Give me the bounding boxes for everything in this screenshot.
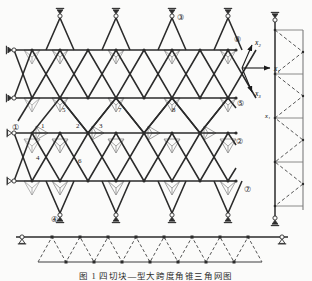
marker-2: ② [236, 137, 243, 146]
axis-label-x1: x₁ [273, 64, 280, 73]
node-label-2: 2 [76, 122, 80, 130]
axis-label-x3: x₃ [254, 89, 261, 98]
right-elevation-axis-label: x₁ [264, 112, 270, 119]
marker-3: ③ [177, 13, 184, 22]
axis-label-x2: x₂ [254, 38, 261, 47]
node-label-1: 1 [41, 122, 45, 130]
supports-right [234, 48, 237, 182]
right-elevation: x₁ [264, 12, 304, 225]
figure-root: x₁ x₂ x₃ 1 2 3 4 5 6 7 8 ① ② ③ ④ ⑤ ⑦ ⑧ [0, 0, 312, 281]
node-label-6: 6 [78, 157, 82, 165]
marker-4: ④ [51, 215, 58, 224]
supports-top [56, 8, 232, 18]
supports-left [6, 46, 16, 185]
marker-1: ① [12, 123, 19, 132]
node-label-8: 8 [172, 106, 176, 114]
node-label-3: 3 [99, 122, 103, 130]
node-label-4: 4 [36, 154, 40, 162]
diagonal-members [14, 18, 256, 213]
chord-lines [14, 50, 236, 181]
bottom-elevation [16, 235, 288, 264]
node-label-5: 5 [62, 106, 66, 114]
plan-view [6, 8, 256, 222]
marker-5: ⑤ [237, 99, 244, 108]
web-members [24, 16, 236, 195]
truss-drawing: x₁ x₂ x₃ 1 2 3 4 5 6 7 8 ① ② ③ ④ ⑤ ⑦ ⑧ [0, 0, 312, 281]
node-label-7: 7 [118, 106, 122, 114]
marker-8: ⑧ [234, 35, 241, 44]
supports-bottom [56, 213, 232, 223]
figure-caption: 图 1 四切块—型大跨度角锥三角网图 [0, 271, 312, 281]
marker-7: ⑦ [244, 185, 251, 194]
